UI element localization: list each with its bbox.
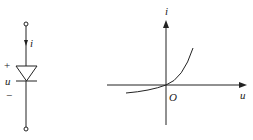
origin-label: O bbox=[169, 91, 177, 103]
i-axis-label: i bbox=[165, 5, 168, 17]
bottom-terminal-icon bbox=[24, 127, 28, 131]
i-axis-arrow-icon bbox=[163, 20, 169, 28]
diode-triangle-icon bbox=[16, 66, 37, 81]
current-label: i bbox=[30, 37, 33, 49]
characteristic-plot bbox=[107, 20, 247, 125]
u-axis-arrow-icon bbox=[239, 82, 247, 88]
voltage-label: u bbox=[5, 75, 11, 87]
u-axis-label: u bbox=[240, 89, 246, 101]
current-arrow-icon bbox=[24, 40, 28, 46]
top-terminal-icon bbox=[24, 22, 28, 26]
diode-circuit bbox=[16, 22, 37, 131]
diagram-canvas: i + u − i u O bbox=[0, 0, 253, 140]
diode-iv-curve bbox=[126, 48, 193, 93]
plus-sign: + bbox=[4, 59, 10, 71]
minus-sign: − bbox=[6, 89, 12, 101]
